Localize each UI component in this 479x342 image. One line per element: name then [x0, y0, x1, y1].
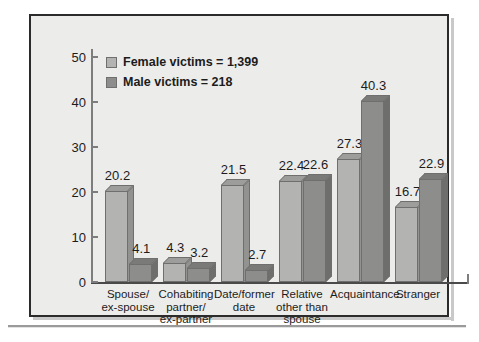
bar-side-face — [384, 95, 390, 282]
bar-female: 27.3 — [337, 159, 360, 282]
bar-front-face — [279, 181, 302, 282]
bar-value-label: 20.2 — [105, 168, 130, 183]
figure-frame: 01020304050 20.24.14.33.221.52.722.422.6… — [29, 14, 449, 317]
category-label: Spouse/ ex-spouse — [98, 288, 158, 313]
legend-swatch-female — [106, 57, 117, 68]
category-label: Relative other than spouse — [272, 288, 332, 326]
bar-value-label: 16.7 — [395, 184, 420, 199]
bar-side-face — [326, 174, 332, 282]
bar-male: 2.7 — [245, 270, 268, 282]
bar-value-label: 4.1 — [132, 241, 150, 256]
bar-front-face — [303, 180, 326, 282]
bar-female: 21.5 — [221, 185, 244, 282]
bar-value-label: 22.6 — [303, 157, 328, 172]
legend-swatch-male — [106, 77, 117, 88]
bar-front-face — [245, 270, 268, 282]
bar-value-label: 27.3 — [337, 136, 362, 151]
legend-label: Female victims = 1,399 — [123, 55, 258, 69]
bar-value-label: 22.4 — [279, 158, 304, 173]
chart-legend: Female victims = 1,399Male victims = 218 — [106, 55, 258, 95]
bar-value-label: 3.2 — [190, 245, 208, 260]
bar-front-face — [361, 101, 384, 282]
x-axis-line — [91, 282, 469, 284]
bar-value-label: 22.9 — [419, 156, 444, 171]
y-axis-tick-label: 40 — [72, 95, 86, 110]
chart-page: 01020304050 20.24.14.33.221.52.722.422.6… — [0, 0, 479, 342]
legend-item: Male victims = 218 — [106, 75, 258, 89]
category-label: Date/former date — [214, 288, 274, 313]
bar-female: 16.7 — [395, 207, 418, 282]
bar-male: 22.6 — [303, 180, 326, 282]
bar-female: 20.2 — [105, 191, 128, 282]
bar-value-label: 21.5 — [221, 162, 246, 177]
bar-front-face — [105, 191, 128, 282]
bar-female: 4.3 — [163, 263, 186, 282]
legend-item: Female victims = 1,399 — [106, 55, 258, 69]
category-label: Stranger — [388, 288, 448, 301]
bar-value-label: 2.7 — [248, 247, 266, 262]
x-axis-endcap — [467, 274, 469, 284]
y-axis-tick-label: 10 — [72, 230, 86, 245]
y-axis-line — [91, 49, 93, 284]
bar-male: 4.1 — [129, 264, 152, 282]
bar-male: 40.3 — [361, 101, 384, 282]
y-axis-tick — [91, 281, 98, 283]
bar-front-face — [419, 179, 442, 282]
y-axis-tick — [91, 146, 98, 148]
bar-front-face — [337, 159, 360, 282]
legend-label: Male victims = 218 — [123, 75, 232, 89]
y-axis-tick-label: 20 — [72, 185, 86, 200]
footer-rule-highlight — [8, 327, 466, 328]
y-axis-tick-label: 0 — [79, 275, 86, 290]
plot-area: 01020304050 20.24.14.33.221.52.722.422.6… — [91, 49, 469, 284]
bar-female: 22.4 — [279, 181, 302, 282]
bar-front-face — [187, 268, 210, 282]
y-axis-tick-label: 30 — [72, 140, 86, 155]
y-axis-tick — [91, 101, 98, 103]
bar-value-label: 4.3 — [166, 240, 184, 255]
category-label: Cohabiting partner/ ex-partner — [156, 288, 216, 326]
bar-male: 22.9 — [419, 179, 442, 282]
y-axis-tick-label: 50 — [72, 50, 86, 65]
frame-shadow-bottom — [33, 317, 453, 320]
y-axis-tick — [91, 56, 98, 58]
bar-front-face — [395, 207, 418, 282]
bar-side-face — [442, 173, 448, 282]
bar-front-face — [163, 263, 186, 282]
category-label: Acquaintance — [330, 288, 390, 301]
bar-front-face — [221, 185, 244, 282]
bar-value-label: 40.3 — [361, 78, 386, 93]
bar-male: 3.2 — [187, 268, 210, 282]
bar-front-face — [129, 264, 152, 282]
y-axis-tick — [91, 236, 98, 238]
y-axis-tick — [91, 191, 98, 193]
